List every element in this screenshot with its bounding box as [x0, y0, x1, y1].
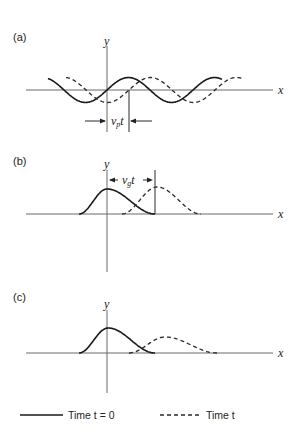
panel-a: (a) y x vpt: [13, 31, 284, 132]
panel-b-x-label: x: [277, 207, 284, 221]
panel-b-pulse-time-t: [122, 187, 201, 214]
panel-b-y-label: y: [103, 157, 110, 171]
panel-c-y-label: y: [103, 297, 110, 311]
legend-solid-label: Time t = 0: [68, 409, 115, 421]
legend-dashed-label: Time t: [206, 409, 235, 421]
panel-a-x-label: x: [277, 83, 284, 97]
panel-c-label: (c): [13, 291, 26, 303]
panel-b-label: (b): [13, 155, 26, 167]
panel-a-y-label: y: [103, 34, 110, 48]
arrowhead-right-icon: [100, 119, 106, 124]
panel-c-x-label: x: [277, 346, 284, 360]
arrowhead-left-icon: [130, 119, 136, 124]
panel-c: (c) y x: [13, 291, 284, 393]
wave-propagation-diagram: (a) y x vpt (b) y x vgt (c) y x: [0, 0, 296, 437]
panel-a-annotation: vpt: [111, 114, 124, 129]
legend: Time t = 0 Time t: [20, 409, 235, 421]
panel-b-annotation: vgt: [122, 173, 135, 188]
panel-b-pulse-time-zero: [79, 189, 155, 214]
arrowhead-left-icon: [109, 178, 115, 183]
panel-c-pulse-time-zero: [79, 328, 155, 353]
panel-b: (b) y x vgt: [13, 155, 284, 272]
panel-a-label: (a): [13, 31, 26, 43]
panel-c-pulse-time-t: [129, 337, 217, 353]
arrowhead-right-icon: [147, 178, 153, 183]
